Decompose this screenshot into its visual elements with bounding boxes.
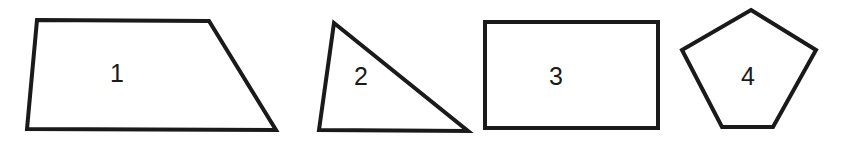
triangle-label: 2 <box>354 62 368 90</box>
shapes-figure: 1 2 3 4 <box>0 0 843 141</box>
shapes-canvas: 1 2 3 4 <box>0 0 843 141</box>
trapezoid-label: 1 <box>110 59 124 87</box>
shape-group-rectangle: 3 <box>485 22 658 128</box>
rectangle-shape <box>485 22 658 128</box>
pentagon-label: 4 <box>741 62 755 90</box>
rectangle-label: 3 <box>549 62 563 90</box>
